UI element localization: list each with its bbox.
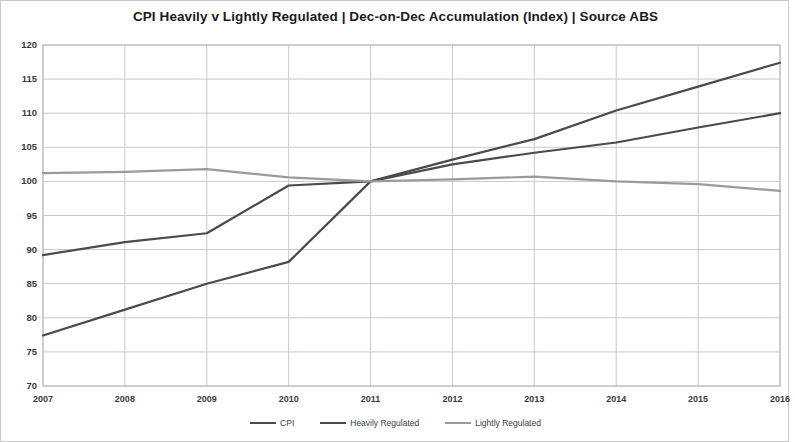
y-tick-label: 115 xyxy=(5,73,37,84)
x-tick-label: 2009 xyxy=(182,394,232,404)
x-tick-label: 2007 xyxy=(18,394,68,404)
y-tick-label: 75 xyxy=(5,346,37,357)
x-tick-label: 2014 xyxy=(591,394,641,404)
legend-label: CPI xyxy=(280,418,294,428)
gridlines xyxy=(43,45,780,386)
y-tick-label: 110 xyxy=(5,107,37,118)
y-tick-label: 100 xyxy=(5,175,37,186)
plot-area xyxy=(1,1,790,442)
x-tick-label: 2013 xyxy=(509,394,559,404)
y-tick-label: 70 xyxy=(5,380,37,391)
legend-entry-lightly-regulated[interactable]: Lightly Regulated xyxy=(445,418,541,428)
x-tick-label: 2016 xyxy=(755,394,795,404)
x-tick-label: 2015 xyxy=(673,394,723,404)
legend-entry-heavily-regulated[interactable]: Heavily Regulated xyxy=(320,418,419,428)
y-tick-label: 105 xyxy=(5,141,37,152)
y-tick-label: 120 xyxy=(5,39,37,50)
legend-label: Heavily Regulated xyxy=(350,418,419,428)
legend-swatch-icon xyxy=(445,422,471,425)
x-tick-label: 2012 xyxy=(427,394,477,404)
x-tick-label: 2008 xyxy=(100,394,150,404)
series-line-cpi xyxy=(43,63,780,336)
y-tick-label: 95 xyxy=(5,210,37,221)
x-tick-label: 2011 xyxy=(346,394,396,404)
y-tick-label: 80 xyxy=(5,312,37,323)
legend-swatch-icon xyxy=(320,422,346,425)
x-tick-label: 2010 xyxy=(264,394,314,404)
legend-entry-cpi[interactable]: CPI xyxy=(250,418,294,428)
legend-label: Lightly Regulated xyxy=(475,418,541,428)
y-tick-label: 85 xyxy=(5,278,37,289)
legend-swatch-icon xyxy=(250,422,276,425)
chart-legend: CPIHeavily RegulatedLightly Regulated xyxy=(1,418,790,428)
series-lines xyxy=(43,63,780,336)
y-tick-label: 90 xyxy=(5,244,37,255)
